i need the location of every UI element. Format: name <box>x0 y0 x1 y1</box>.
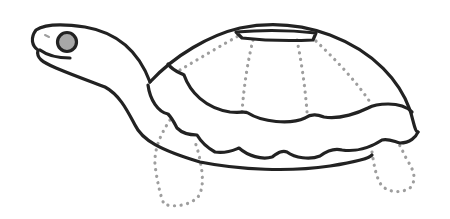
shell-seams <box>180 35 372 112</box>
shell-scallop-rows <box>148 64 418 158</box>
shell-top <box>150 25 418 132</box>
eye <box>58 33 77 52</box>
back-leg <box>372 143 414 192</box>
turtle-drawing <box>0 0 450 219</box>
nostril <box>45 35 49 37</box>
front-leg <box>155 120 202 206</box>
shell-plate <box>236 31 316 41</box>
turtle-illustration <box>0 0 450 219</box>
